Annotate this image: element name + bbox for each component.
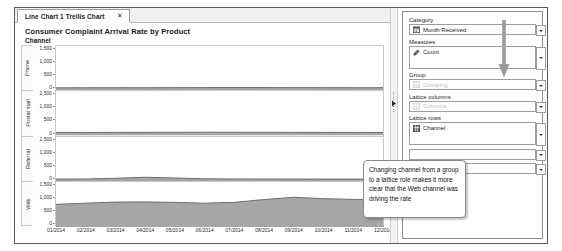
row-label-text: Phone bbox=[25, 60, 31, 76]
ruler-icon bbox=[413, 49, 420, 56]
area-series-referral bbox=[56, 137, 383, 181]
group-value: Grouping bbox=[423, 82, 448, 88]
row-label-text: Postal mail bbox=[25, 100, 31, 127]
field-category: Category Month Received bbox=[409, 17, 536, 35]
extra-1-dropdown-arrow[interactable] bbox=[536, 150, 546, 161]
field-lattice-rows: Lattice rows Channel bbox=[409, 115, 536, 145]
lattice-header-label: Channel bbox=[25, 37, 51, 44]
grip-dot bbox=[393, 109, 394, 110]
y-axis-panel-1: 1,5001,0005000 bbox=[32, 90, 55, 135]
lattice-rows-dropdown-arrow[interactable] bbox=[536, 123, 546, 146]
trellis-panel-web bbox=[56, 182, 383, 227]
x-tick-label: 02/2014 bbox=[77, 227, 95, 233]
y-tick-label: 1,000 bbox=[39, 103, 52, 109]
row-label-text: Referral bbox=[25, 149, 31, 169]
lattice-columns-label: Lattice columns bbox=[409, 94, 536, 100]
lattice-row-label-column: PhonePostal mailReferralWeb bbox=[21, 45, 32, 226]
measures-label: Measures bbox=[409, 39, 536, 45]
close-icon[interactable]: ✕ bbox=[117, 12, 123, 20]
grip-dot bbox=[393, 94, 394, 95]
x-tick-mark bbox=[115, 225, 116, 227]
x-tick-mark bbox=[264, 225, 265, 227]
y-tick-label: 1,000 bbox=[39, 58, 52, 64]
y-axis-panel-2: 1,5001,0005000 bbox=[32, 136, 55, 181]
trellis-panels bbox=[55, 45, 384, 226]
extra-2-dropdown-arrow[interactable] bbox=[536, 164, 546, 175]
grid-icon bbox=[413, 125, 420, 132]
category-dropdown-arrow[interactable] bbox=[536, 25, 546, 36]
trellis-panel-referral bbox=[56, 137, 383, 182]
x-tick-label: 01/2014 bbox=[47, 227, 65, 233]
x-tick-mark bbox=[205, 225, 206, 227]
collapse-pane-icon[interactable] bbox=[391, 100, 397, 107]
lattice-columns-select[interactable]: Columns bbox=[409, 101, 536, 112]
lattice-columns-value: Columns bbox=[423, 103, 447, 109]
category-value: Month Received bbox=[423, 27, 466, 33]
group-select[interactable]: Grouping bbox=[409, 79, 536, 90]
x-tick-label: 08/2014 bbox=[255, 227, 273, 233]
lattice-rows-label: Lattice rows bbox=[409, 115, 536, 121]
x-tick-mark bbox=[294, 225, 295, 227]
y-axis-column: 1,5001,00050001,5001,00050001,5001,00050… bbox=[32, 45, 55, 226]
measures-select[interactable]: Count bbox=[409, 46, 536, 69]
x-tick-mark bbox=[324, 225, 325, 227]
y-axis-panel-0: 1,5001,0005000 bbox=[32, 45, 55, 90]
x-tick-label: 04/2014 bbox=[136, 227, 154, 233]
annotation-callout: Changing channel from a group to a latti… bbox=[363, 160, 466, 218]
row-label-text: Web bbox=[25, 199, 31, 210]
field-group: Group Grouping bbox=[409, 72, 536, 90]
area-series-web bbox=[56, 182, 383, 227]
area-series-phone bbox=[56, 46, 383, 90]
x-tick-label: 09/2014 bbox=[285, 227, 303, 233]
x-tick-mark bbox=[56, 225, 57, 227]
category-select[interactable]: Month Received bbox=[409, 24, 536, 35]
y-axis-panel-3: 1,5001,0005000 bbox=[32, 181, 55, 226]
tab-strip: Line Chart 1 Trellis Chart ✕ bbox=[15, 8, 390, 23]
y-tick-label: 1,500 bbox=[39, 181, 52, 187]
x-tick-mark bbox=[383, 225, 384, 227]
x-tick-label: 12/2014 bbox=[374, 227, 390, 233]
x-tick-mark bbox=[145, 225, 146, 227]
calendar-icon bbox=[413, 26, 420, 33]
area-series-postal-mail bbox=[56, 91, 383, 135]
x-tick-label: 06/2014 bbox=[196, 227, 214, 233]
y-tick-label: 0 bbox=[49, 220, 52, 226]
x-tick-mark bbox=[175, 225, 176, 227]
y-tick-label: 1,500 bbox=[39, 90, 52, 96]
y-tick-label: 1,000 bbox=[39, 194, 52, 200]
grid-icon bbox=[413, 103, 420, 110]
tab-line-chart-1-trellis-chart[interactable]: Line Chart 1 Trellis Chart ✕ bbox=[17, 9, 130, 23]
extra-1-select[interactable] bbox=[409, 149, 536, 160]
x-tick-mark bbox=[86, 225, 87, 227]
grid-icon bbox=[413, 81, 420, 88]
y-tick-label: 500 bbox=[44, 207, 52, 213]
group-dropdown-arrow[interactable] bbox=[536, 80, 546, 91]
x-tick-label: 11/2014 bbox=[344, 227, 362, 233]
lattice-columns-dropdown-arrow[interactable] bbox=[536, 102, 546, 113]
field-extra-1 bbox=[409, 149, 536, 160]
tab-label: Line Chart 1 Trellis Chart bbox=[25, 13, 105, 20]
y-tick-label: 500 bbox=[44, 162, 52, 168]
y-tick-label: 500 bbox=[44, 71, 52, 77]
x-tick-label: 07/2014 bbox=[225, 227, 243, 233]
y-tick-label: 1,500 bbox=[39, 45, 52, 51]
lattice-rows-select[interactable]: Channel bbox=[409, 122, 536, 145]
grip-dot bbox=[393, 97, 394, 98]
field-measures: Measures Count bbox=[409, 39, 536, 69]
y-tick-label: 1,500 bbox=[39, 136, 52, 142]
trellis-panel-postal-mail bbox=[56, 91, 383, 136]
x-axis: 01/201402/201403/201404/201405/201406/20… bbox=[55, 227, 384, 239]
y-tick-label: 1,000 bbox=[39, 149, 52, 155]
x-tick-label: 03/2014 bbox=[106, 227, 124, 233]
callout-text: Changing channel from a group to a latti… bbox=[369, 165, 460, 203]
measures-value: Count bbox=[423, 49, 439, 55]
category-label: Category bbox=[409, 17, 536, 23]
x-tick-mark bbox=[353, 225, 354, 227]
chart-pane: Line Chart 1 Trellis Chart ✕ Consumer Co… bbox=[15, 8, 390, 243]
x-tick-label: 05/2014 bbox=[166, 227, 184, 233]
chart-title: Consumer Complaint Arrival Rate by Produ… bbox=[25, 27, 190, 36]
measures-dropdown-arrow[interactable] bbox=[536, 47, 546, 70]
chart-canvas: Consumer Complaint Arrival Rate by Produ… bbox=[15, 23, 390, 243]
grip-dot bbox=[393, 111, 394, 112]
field-lattice-columns: Lattice columns Columns bbox=[409, 94, 536, 112]
